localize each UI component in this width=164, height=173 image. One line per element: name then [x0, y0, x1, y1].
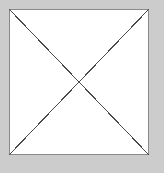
crossed-box-placeholder — [0, 0, 164, 173]
placeholder-canvas — [0, 0, 164, 173]
